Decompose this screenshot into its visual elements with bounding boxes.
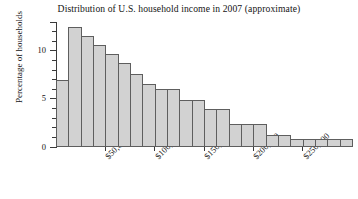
bar xyxy=(229,124,242,147)
bar xyxy=(56,80,69,147)
bar xyxy=(216,109,229,147)
chart-title: Distribution of U.S. household income in… xyxy=(0,3,358,14)
bar xyxy=(266,135,279,147)
bar xyxy=(315,139,328,147)
bar xyxy=(179,100,192,147)
y-tick-label: 0 xyxy=(16,143,46,152)
bar xyxy=(204,109,217,147)
bar-series xyxy=(56,22,352,147)
bar xyxy=(105,54,118,147)
y-tick-label: 5 xyxy=(16,94,46,103)
bar xyxy=(81,36,94,147)
bar xyxy=(290,139,303,147)
bar xyxy=(253,124,266,147)
y-axis-label: Percentage of households xyxy=(14,0,24,122)
bar xyxy=(340,139,353,147)
chart-figure: Distribution of U.S. household income in… xyxy=(0,0,358,199)
bar xyxy=(167,89,180,147)
bar xyxy=(192,100,205,147)
bar xyxy=(68,27,81,147)
bar xyxy=(93,45,106,147)
bar xyxy=(303,139,316,147)
bar xyxy=(130,74,143,147)
y-tick-label: 10 xyxy=(16,46,46,55)
bar xyxy=(278,135,291,147)
bar xyxy=(241,124,254,147)
bar xyxy=(155,89,168,147)
bar xyxy=(327,139,340,147)
bar xyxy=(142,84,155,147)
bar xyxy=(118,63,131,147)
